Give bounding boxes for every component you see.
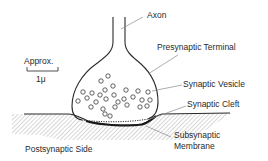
axon-left-edge xyxy=(72,17,113,120)
subsynaptic-membrane xyxy=(86,116,156,125)
synaptic-vesicles xyxy=(76,74,152,118)
postsynaptic-side-label: Postsynaptic Side xyxy=(25,144,93,154)
synapse-diagram: Axon Presynaptic Terminal Synaptic Vesic… xyxy=(0,0,268,161)
axon-label: Axon xyxy=(147,10,166,20)
presynaptic-terminal-label: Presynaptic Terminal xyxy=(157,42,236,52)
synaptic-vesicle-label: Synaptic Vesicle xyxy=(183,79,245,89)
presynaptic-terminal-leader xyxy=(148,55,178,74)
scale-bar xyxy=(27,67,58,71)
synaptic-cleft-label: Synaptic Cleft xyxy=(187,99,239,109)
subsynaptic-membrane-label-line1: Subsynaptic xyxy=(174,130,220,140)
subsynaptic-membrane-label-line2: Membrane xyxy=(174,141,215,151)
axon-leader xyxy=(121,17,143,29)
presynaptic-membrane xyxy=(82,119,148,122)
axon-right-edge xyxy=(125,17,158,119)
scale-caption: Approx. xyxy=(24,56,53,66)
scale-value: 1μ xyxy=(36,74,46,84)
